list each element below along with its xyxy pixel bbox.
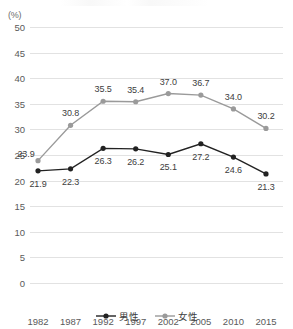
y-axis-tick-label: 50 xyxy=(14,22,25,33)
legend-label: 男性 xyxy=(119,309,139,323)
y-axis-tick-label: 40 xyxy=(14,73,25,84)
data-point-label: 22.3 xyxy=(62,177,79,187)
data-point-marker xyxy=(198,141,203,146)
y-axis-tick-label: 0 xyxy=(20,278,25,289)
plot-area: 05101520253035404550 21.922.326.326.225.… xyxy=(30,27,283,283)
data-point-label: 25.1 xyxy=(160,162,177,172)
legend-line-circle-marker-icon xyxy=(96,312,116,320)
data-point-label: 21.9 xyxy=(29,179,46,189)
chart-container: (%) 05101520253035404550 21.922.326.326.… xyxy=(0,0,293,329)
data-point-label: 23.9 xyxy=(17,149,34,159)
data-point-label: 26.3 xyxy=(95,156,112,166)
cropped-title-artifact xyxy=(60,0,210,6)
data-point-marker xyxy=(68,123,73,128)
y-axis-unit-label: (%) xyxy=(8,10,21,20)
data-point-marker xyxy=(263,126,268,131)
data-point-marker xyxy=(263,171,268,176)
data-point-marker xyxy=(35,158,40,163)
data-point-label: 30.2 xyxy=(257,111,274,121)
data-point-label: 26.2 xyxy=(127,157,144,167)
series-layer xyxy=(30,27,283,283)
y-axis-tick-label: 45 xyxy=(14,47,25,58)
data-point-label: 35.4 xyxy=(127,85,144,95)
data-point-label: 35.5 xyxy=(95,84,112,94)
chart-legend: 男性女性 xyxy=(0,309,293,323)
data-point-marker xyxy=(133,146,138,151)
y-axis-tick-label: 10 xyxy=(14,226,25,237)
gridline xyxy=(30,283,283,284)
data-point-marker xyxy=(35,168,40,173)
data-point-marker xyxy=(68,166,73,171)
data-point-marker xyxy=(101,146,106,151)
y-axis-tick-label: 35 xyxy=(14,98,25,109)
data-point-label: 37.0 xyxy=(160,77,177,87)
data-point-label: 27.2 xyxy=(192,152,209,162)
data-point-label: 30.8 xyxy=(62,108,79,118)
data-point-label: 34.0 xyxy=(225,92,242,102)
data-point-marker xyxy=(166,91,171,96)
data-point-marker xyxy=(101,99,106,104)
legend-line-circle-marker-icon xyxy=(155,312,175,320)
data-point-marker xyxy=(166,152,171,157)
data-point-marker xyxy=(198,92,203,97)
data-point-label: 36.7 xyxy=(192,78,209,88)
data-point-label: 24.6 xyxy=(225,165,242,175)
y-axis-tick-label: 15 xyxy=(14,201,25,212)
y-axis-tick-label: 20 xyxy=(14,175,25,186)
data-point-marker xyxy=(133,99,138,104)
data-point-marker xyxy=(231,154,236,159)
data-point-label: 21.3 xyxy=(257,182,274,192)
y-axis-tick-label: 30 xyxy=(14,124,25,135)
legend-item[interactable]: 女性 xyxy=(155,309,198,323)
data-point-marker xyxy=(231,106,236,111)
legend-item[interactable]: 男性 xyxy=(96,309,139,323)
y-axis-tick-label: 5 xyxy=(20,252,25,263)
legend-label: 女性 xyxy=(178,309,198,323)
